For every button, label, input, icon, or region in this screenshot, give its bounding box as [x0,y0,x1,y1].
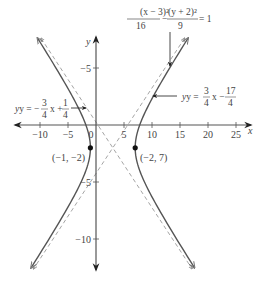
asym-right-den1: 4 [204,98,209,108]
vertex-left-label: (−1, −2) [52,152,85,164]
vertex-left-point [88,145,93,150]
y-tick-label: −5 [80,177,91,188]
vertices: (−1, −2) (−2, 7) [52,145,167,164]
asym-right-lhs: y = [186,92,198,102]
y-axis-label: y [85,36,91,47]
x-axis-label: x [247,125,253,136]
asymptote-label-right: yy = 3 4 x − 17 4 [153,86,236,108]
x-tick-label: −5 [63,129,74,140]
equation-equals: = 1 [199,14,212,24]
asym-right-mid: x − [212,92,224,102]
vertex-right-point [133,145,138,150]
x-tick-label: −10 [32,129,48,140]
y-tick-label: −5 [80,63,91,74]
svg-text:yy = −: yy = − [14,104,39,114]
x-axis: −10−50510152025 x [15,122,253,140]
equation-denominator-left: 16 [136,21,146,31]
vertex-right-label: (−2, 7) [140,152,167,164]
asym-left-lhs: y = − [19,104,39,114]
asym-left-num1: 3 [42,98,47,108]
hyperbola-diagram: −10−50510152025 x −5−5−10 y (−1, −2) (−2… [0,0,263,281]
y-tick-label: −10 [75,234,91,245]
asym-left-num2: 1 [63,98,68,108]
asym-right-den2: 4 [228,98,233,108]
asym-right-num1: 3 [204,86,209,96]
x-tick-label: 5 [122,129,127,140]
asym-right-num2: 17 [226,86,236,96]
asym-left-den1: 4 [42,110,47,120]
x-tick-label: 15 [175,129,185,140]
hyperbola-equation-label: (x − 3)² 16 − (y + 2)² 9 = 1 [127,7,212,66]
x-tick-label: 25 [231,129,241,140]
equation-minus: − [162,14,167,24]
equation-denominator-right: 9 [178,21,183,31]
asym-left-mid: x + [50,104,62,114]
x-tick-label: 10 [147,129,157,140]
x-tick-label: 20 [203,129,213,140]
svg-text:yy =: yy = [181,92,199,102]
asym-left-den2: 4 [63,110,68,120]
equation-numerator-right: (y + 2)² [168,7,197,18]
